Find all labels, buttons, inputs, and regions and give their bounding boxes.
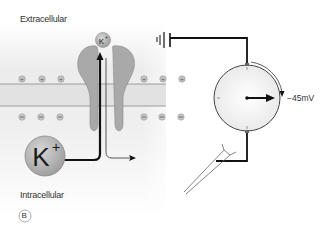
- plus-charge-icon: +: [19, 76, 25, 82]
- plus-charge-icon: +: [39, 76, 45, 82]
- minus-charge-icon: [141, 114, 147, 120]
- svg-text:K: K: [99, 37, 105, 46]
- svg-text:+: +: [142, 76, 146, 82]
- ground-wire: [170, 38, 247, 64]
- svg-text:+: +: [40, 76, 44, 82]
- cell-membrane: [0, 84, 166, 106]
- svg-text:+: +: [161, 76, 165, 82]
- meter-reading: −45mV: [287, 93, 314, 103]
- minus-charge-icon: [159, 114, 165, 120]
- plus-charge-icon: +: [160, 76, 166, 82]
- minus-charge-icon: [57, 114, 63, 120]
- potassium-ion-small: K +: [96, 33, 111, 48]
- svg-text:+: +: [52, 139, 60, 155]
- potassium-ion-large: K +: [25, 136, 65, 176]
- plus-charge-icon: +: [179, 76, 185, 82]
- minus-charge-icon: [38, 114, 44, 120]
- svg-text:+: +: [59, 76, 63, 82]
- intracellular-label: Intracellular: [20, 190, 64, 200]
- electrode-wire: [216, 133, 247, 161]
- microelectrode: [184, 144, 236, 194]
- minus-charge-icon: [178, 114, 184, 120]
- extracellular-label: Extracellular: [20, 14, 67, 24]
- svg-text:K: K: [32, 142, 50, 172]
- panel-label: B: [22, 211, 27, 220]
- plus-charge-icon: +: [141, 76, 147, 82]
- svg-text:+: +: [105, 34, 108, 40]
- svg-text:+: +: [20, 76, 24, 82]
- minus-charge-icon: [19, 114, 25, 120]
- svg-text:+: +: [180, 76, 184, 82]
- voltmeter: [214, 62, 285, 133]
- plus-charge-icon: +: [58, 76, 64, 82]
- membrane-potential-diagram: + + + + + + K +: [0, 0, 330, 227]
